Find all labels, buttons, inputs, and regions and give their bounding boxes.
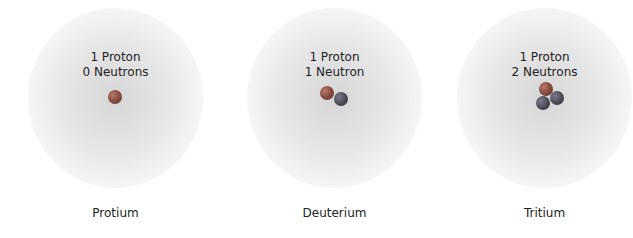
atom-deuterium: 1 Proton 1 Neutron Deuterium (227, 0, 437, 238)
neutron-icon (550, 91, 564, 105)
isotope-name: Tritium (437, 206, 633, 220)
neutron-icon (536, 96, 550, 110)
isotope-name: Deuterium (227, 206, 442, 220)
proton-count-label: 1 Proton (437, 50, 633, 64)
atom-tritium: 1 Proton 2 Neutrons Tritium (437, 0, 633, 238)
proton-count-label: 1 Proton (8, 50, 223, 64)
proton-count-label: 1 Proton (227, 50, 442, 64)
proton-icon (108, 90, 122, 104)
neutron-count-label: 2 Neutrons (437, 65, 633, 79)
neutron-icon (334, 92, 348, 106)
isotope-name: Protium (8, 206, 223, 220)
neutron-count-label: 0 Neutrons (8, 65, 223, 79)
proton-icon (320, 86, 334, 100)
neutron-count-label: 1 Neutron (227, 65, 442, 79)
atom-protium: 1 Proton 0 Neutrons Protium (8, 0, 218, 238)
